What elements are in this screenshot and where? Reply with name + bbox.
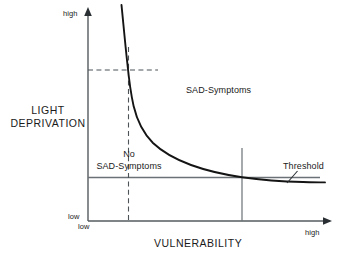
region-label-no-sad-symptoms: No SAD-Symptoms [68, 148, 190, 172]
y-axis-title-line2: DEPRIVATION [0, 117, 96, 130]
region-label-no-sad-symptoms-line1: No [68, 148, 190, 160]
x-axis [88, 217, 332, 224]
x-axis-low-label: low [78, 223, 90, 231]
x-axis-title: VULNERABILITY [154, 238, 242, 249]
y-axis-title: LIGHT DEPRIVATION [0, 104, 96, 130]
threshold-annotation-label: Threshold [283, 162, 324, 171]
figure-sad-symptoms-diagram: high low low high LIGHT DEPRIVATION VULN… [0, 0, 338, 256]
y-axis-high-label: high [63, 10, 78, 18]
y-axis-title-line1: LIGHT [0, 104, 96, 117]
region-label-no-sad-symptoms-line2: SAD-Symptoms [68, 160, 190, 172]
x-axis-high-label: high [305, 229, 320, 237]
region-label-sad-symptoms: SAD-Symptoms [186, 86, 251, 95]
y-axis-low-label: low [68, 213, 80, 221]
